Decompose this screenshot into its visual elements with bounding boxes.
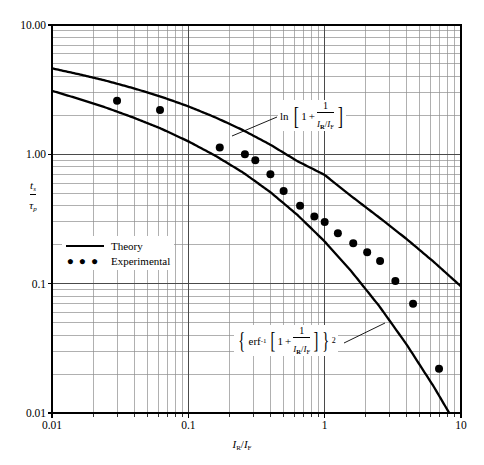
y-tick-label: 1.00 (26, 148, 46, 160)
x-tick-label: 10 (455, 419, 467, 431)
lower-formula-numerator: 1 (293, 326, 310, 338)
lower-formula-bracket-close: ] (314, 330, 319, 350)
lower-formula-brace-close: } (322, 330, 329, 350)
lower-formula-plus: + (285, 335, 291, 347)
y-tick-label: 0.01 (26, 407, 46, 419)
x-axis-title: IR/IF (0, 434, 484, 452)
upper-formula-den-sub2: F (330, 123, 334, 130)
legend-label-theory: Theory (111, 240, 143, 252)
lower-formula-bracket-open: [ (270, 330, 275, 350)
upper-formula-one: 1 (301, 110, 307, 122)
y-tick-label: 0.1 (32, 278, 47, 290)
legend-dots-swatch-icon: ●●● (66, 256, 104, 266)
y-tick-label: 10.00 (20, 19, 46, 31)
chart-background (0, 0, 484, 465)
legend: Theory ●●● Experimental (62, 236, 174, 270)
lower-formula-fn: erf (249, 335, 261, 347)
legend-item-theory: Theory (66, 238, 170, 253)
upper-formula-bracket-open: [ (293, 105, 298, 127)
y-axis-title-denominator-sub: p (33, 205, 37, 213)
x-axis-title-sub2: F (248, 444, 252, 452)
upper-formula-bracket-close: ] (338, 105, 343, 127)
x-tick-label: 1 (322, 419, 328, 431)
upper-formula-numerator: 1 (317, 101, 334, 113)
lower-formula-brace-open: { (238, 330, 245, 350)
figure-root: 10.001.000.10.01 0.010.1110 ts τp IR/IF … (0, 0, 484, 465)
upper-formula-fn: ln (280, 110, 289, 122)
lower-formula-den-sub2: F (307, 348, 311, 355)
lower-formula-inverse-exponent: -1 (261, 337, 267, 345)
legend-line-swatch-icon (66, 245, 104, 247)
lower-formula-square-exponent: 2 (332, 336, 336, 345)
x-tick-label: 0.01 (42, 419, 62, 431)
lower-formula-one: 1 (278, 335, 284, 347)
log-log-chart: 10.001.000.10.01 0.010.1110 (0, 0, 484, 465)
legend-item-experimental: ●●● Experimental (66, 253, 170, 268)
lower-curve-formula: { erf-1 [ 1 + 1 IR/IF ] } 2 (234, 325, 338, 356)
y-axis-title-numerator-sub: s (33, 185, 36, 193)
upper-curve-formula: ln [ 1 + 1 IR/IF ] (278, 100, 346, 131)
legend-label-experimental: Experimental (111, 255, 170, 267)
x-tick-label: 0.1 (181, 419, 196, 431)
y-axis-title: ts τp (16, 176, 50, 214)
upper-formula-plus: + (309, 110, 315, 122)
